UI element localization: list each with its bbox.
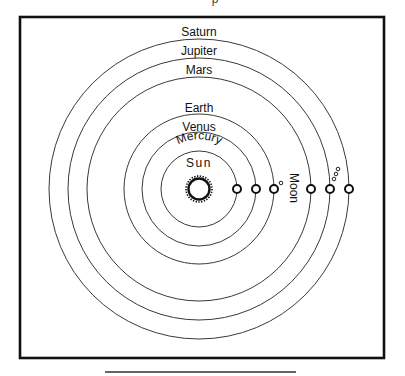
title-fragment: p — [212, 0, 219, 6]
planet-mars — [307, 185, 315, 193]
label-mars: Mars — [186, 63, 213, 77]
planet-earth — [270, 185, 278, 193]
geocentric-solar-system-diagram: p Moon Saturn Jupiter Mars Earth Venus — [0, 0, 405, 376]
label-mercury: Mercury — [174, 128, 225, 147]
label-earth: Earth — [185, 101, 214, 115]
moon-label: Moon — [287, 173, 301, 203]
label-jupiter: Jupiter — [181, 44, 217, 58]
label-sun: Sun — [186, 156, 212, 170]
planet-jupiter — [326, 185, 334, 193]
jupiter-moons-icon — [332, 167, 340, 181]
planet-mercury — [233, 185, 241, 193]
label-saturn: Saturn — [181, 25, 216, 39]
planet-venus — [252, 185, 260, 193]
sun-icon — [186, 176, 212, 202]
moon-icon — [279, 181, 283, 185]
planet-saturn — [345, 185, 353, 193]
